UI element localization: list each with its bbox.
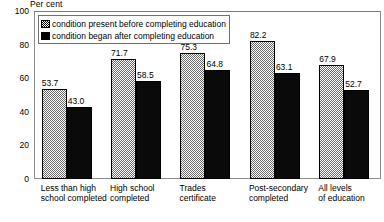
bar-before [111, 59, 136, 179]
y-axis-tick-60: 60 [20, 74, 29, 83]
bar-chart: Per cent 020406080100 condition present … [0, 0, 384, 222]
y-axis-tick-0: 0 [24, 175, 29, 184]
y-axis-tick-100: 100 [15, 7, 29, 16]
bar-group: 82.263.1 [242, 11, 311, 179]
legend-item-before: condition present before completing educ… [41, 18, 226, 29]
bar-before [319, 65, 344, 179]
y-axis-unit-caption: Per cent [30, 0, 62, 10]
bar-value-label: 67.9 [319, 55, 336, 64]
bar-value-label: 58.5 [137, 71, 154, 80]
legend-label-before: condition present before completing educ… [52, 19, 226, 29]
bar-after [205, 70, 230, 179]
legend-item-after: condition began after completing educati… [41, 30, 226, 41]
bar-before [180, 53, 205, 180]
bar-value-label: 52.7 [345, 80, 362, 89]
y-axis-tick-80: 80 [20, 40, 29, 49]
legend-swatch-solid-icon [41, 32, 50, 40]
bar-value-label: 64.8 [206, 60, 223, 69]
bar-after [344, 90, 369, 179]
legend-swatch-pattern-icon [41, 20, 50, 28]
bar-value-label: 82.2 [250, 31, 267, 40]
bar-value-label: 53.7 [42, 79, 59, 88]
bar-before [250, 41, 275, 179]
x-axis-label: Trades certificate [180, 183, 255, 203]
x-axis-label: All levels of education [318, 183, 384, 203]
bar-after [275, 73, 300, 179]
x-axis-label: Post-secondary completed [249, 183, 324, 203]
y-axis: 020406080100 [0, 11, 34, 179]
x-axis-label: Less than high school completed [41, 183, 116, 203]
bar-group: 67.952.7 [312, 11, 381, 179]
bar-after [67, 107, 92, 179]
chart-legend: condition present before completing educ… [38, 15, 230, 44]
y-axis-tick-40: 40 [20, 107, 29, 116]
bar-value-label: 63.1 [276, 63, 293, 72]
bar-value-label: 43.0 [68, 97, 85, 106]
legend-label-after: condition began after completing educati… [52, 31, 214, 41]
y-axis-tick-20: 20 [20, 141, 29, 150]
bar-after [136, 81, 161, 179]
x-axis-labels: Less than high school completedHigh scho… [34, 183, 381, 221]
x-axis-label: High school completed [110, 183, 185, 203]
bar-value-label: 71.7 [111, 49, 128, 58]
bar-before [42, 89, 67, 179]
